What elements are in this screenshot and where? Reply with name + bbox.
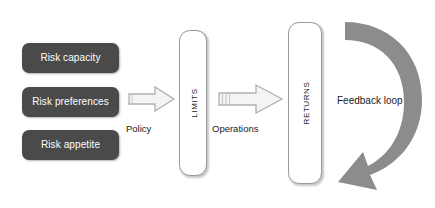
input-box-risk-appetite: Risk appetite [22,130,119,160]
policy-arrow-icon [128,84,176,114]
risk-flow-diagram: Risk capacity Risk preferences Risk appe… [0,0,435,208]
input-box-label: Risk preferences [32,97,109,107]
operations-arrow-icon [218,82,284,116]
pillar-limits: Limits [179,30,207,176]
operations-label: Operations [212,123,258,134]
pillar-limits-label: Limits [187,88,199,117]
input-box-label: Risk capacity [40,53,100,63]
pillar-returns: Returns [288,22,322,184]
input-box-label: Risk appetite [41,140,100,150]
feedback-loop-label: Feedback loop [337,95,403,106]
input-box-risk-preferences: Risk preferences [22,87,119,117]
input-box-risk-capacity: Risk capacity [22,43,119,73]
policy-label: Policy [126,123,151,134]
pillar-returns-label: Returns [299,82,311,125]
